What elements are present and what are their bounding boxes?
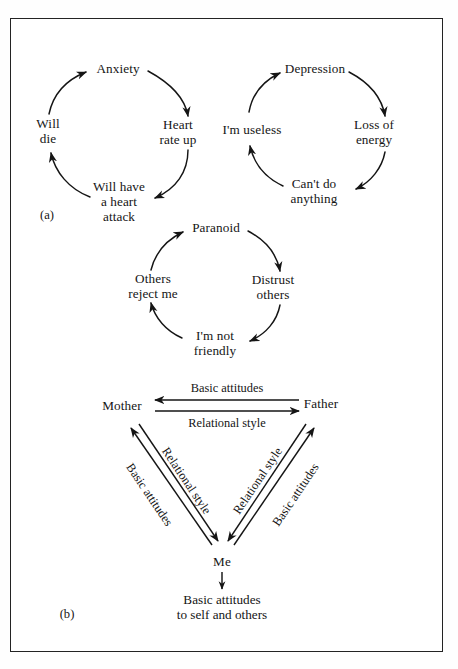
triangle-outcome-caption: Basic attitudes to self and others [177, 592, 267, 622]
node-heart-rate-up: Heart rate up [160, 118, 197, 148]
node-im-not-friendly: I'm not friendly [194, 329, 237, 359]
node-father: Father [304, 397, 338, 412]
node-me: Me [213, 555, 231, 570]
node-loss-of-energy: Loss of energy [354, 118, 394, 148]
panel-label-b: (b) [60, 607, 75, 622]
figure-page: (a) (b) Anxiety Heart rate up Will have … [0, 0, 458, 669]
panel-label-a: (a) [40, 208, 54, 223]
node-will-have-a-heart-attack: Will have a heart attack [93, 180, 145, 224]
node-will-die: Will die [36, 117, 59, 147]
node-cant-do-anything: Can't do anything [291, 177, 338, 207]
edge-label-father-to-mother: Basic attitudes [191, 381, 264, 396]
node-im-useless: I'm useless [223, 123, 282, 138]
node-paranoid: Paranoid [192, 221, 240, 236]
node-depression: Depression [285, 62, 345, 77]
node-mother: Mother [102, 399, 141, 414]
node-anxiety: Anxiety [96, 62, 139, 77]
node-distrust-others: Distrust others [252, 273, 295, 303]
node-others-reject-me: Others reject me [128, 272, 178, 302]
edge-label-mother-to-father: Relational style [188, 416, 265, 431]
